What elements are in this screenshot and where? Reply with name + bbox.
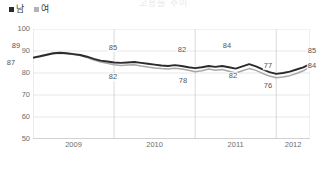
- data-label: 84: [222, 42, 232, 50]
- plot-area: 5060708090100 2009201020112012 898785828…: [33, 29, 310, 139]
- y-tick-label: 80: [22, 69, 30, 77]
- y-tick-label: 60: [22, 113, 30, 121]
- x-tick-label: 2010: [146, 141, 163, 149]
- y-tick-label: 50: [22, 135, 30, 143]
- x-tick-label: 2009: [65, 141, 82, 149]
- x-tick-label: 2012: [285, 141, 302, 149]
- legend-swatch-female: [34, 7, 39, 12]
- data-label: 89: [11, 42, 21, 50]
- legend-label-male: 남: [16, 5, 24, 14]
- x-tick-label: 2011: [228, 141, 244, 149]
- data-label: 84: [307, 62, 317, 70]
- data-label: 85: [307, 47, 317, 55]
- data-label: 82: [177, 46, 187, 54]
- y-tick-label: 70: [22, 91, 30, 99]
- employment-rate-line-chart: 고용률 추이 남 여 5060708090100 200920102011201…: [0, 0, 327, 169]
- chart-title: 고용률 추이: [0, 0, 327, 9]
- legend-label-female: 여: [41, 5, 49, 14]
- legend-item-male[interactable]: 남: [9, 5, 24, 14]
- data-label: 78: [178, 77, 188, 85]
- chart-legend: 남 여: [9, 5, 49, 14]
- data-label: 87: [6, 59, 16, 67]
- data-label: 77: [263, 62, 273, 70]
- legend-swatch-male: [9, 7, 14, 12]
- data-label: 85: [108, 44, 118, 52]
- y-tick-label: 90: [22, 47, 30, 55]
- data-label: 82: [228, 72, 238, 80]
- y-tick-label: 100: [17, 25, 30, 33]
- data-label: 82: [108, 73, 118, 81]
- data-label: 76: [263, 82, 273, 90]
- legend-item-female[interactable]: 여: [34, 5, 49, 14]
